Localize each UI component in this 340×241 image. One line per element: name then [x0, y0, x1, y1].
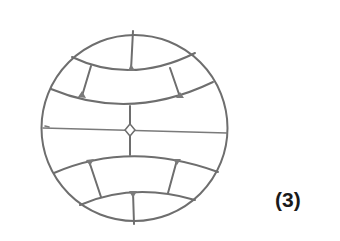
central-node: [125, 124, 135, 136]
lower-arc-2: [80, 192, 195, 205]
left-edge-mark: [45, 126, 49, 127]
upper-right-wall: [170, 68, 180, 97]
upper-arc-2: [51, 82, 213, 104]
lower-right-wall: [168, 160, 177, 193]
junction-upper-left: [78, 91, 86, 98]
upper-left-wall: [82, 66, 91, 96]
lower-left-wall: [89, 161, 101, 197]
junction-bottom: [129, 191, 137, 198]
figure-label: (3): [275, 188, 301, 212]
top-radial-wall: [131, 31, 133, 70]
lower-arc-1: [54, 156, 218, 173]
junction-top: [128, 64, 135, 71]
